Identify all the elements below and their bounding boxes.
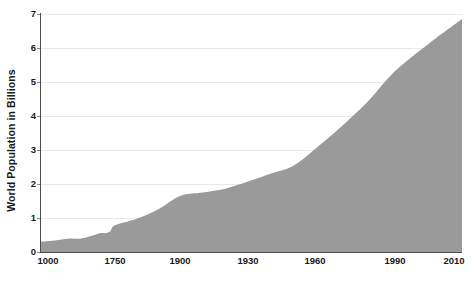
x-axis-tick-label: 1990 — [384, 256, 405, 266]
x-axis-tick-label: 2010 — [443, 256, 464, 266]
x-axis-tick-label: 1000 — [37, 256, 58, 266]
x-axis-tick-label: 1960 — [304, 256, 325, 266]
area-series-world-population — [40, 19, 462, 252]
x-axis-tick-label-group: 1000175019001930196019902010 — [0, 256, 473, 274]
tick-marks — [37, 15, 40, 253]
plot-area — [0, 0, 473, 281]
x-axis-tick-label: 1750 — [104, 256, 125, 266]
x-axis-tick-label: 1900 — [169, 256, 190, 266]
world-population-area-chart: World Population in Billions 76543210 10… — [0, 0, 473, 281]
x-axis-tick-label: 1930 — [237, 256, 258, 266]
